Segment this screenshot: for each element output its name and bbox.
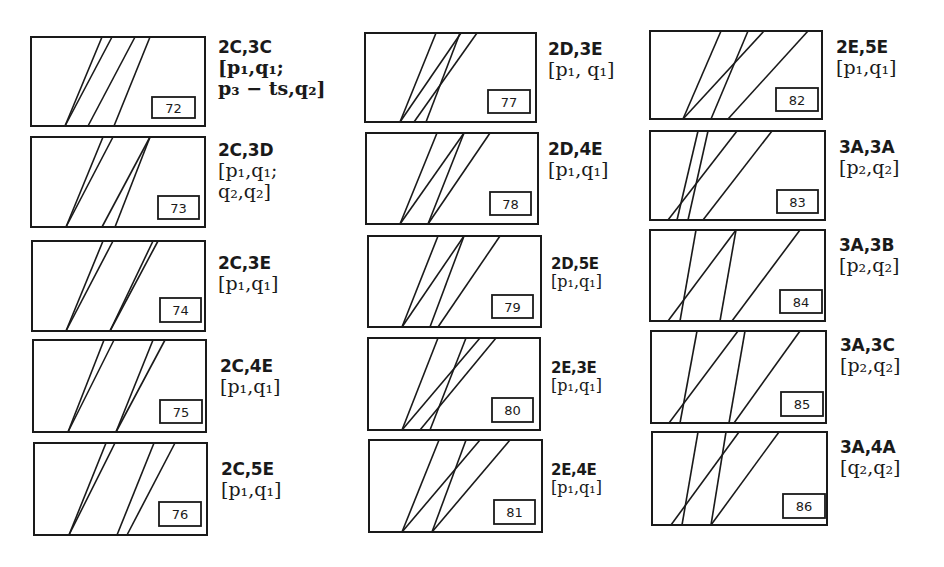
configuration-code: 2C,3E xyxy=(218,254,278,273)
panel-83: 83 xyxy=(650,131,825,220)
panel-75: 75 xyxy=(33,340,206,432)
parameter-bracket: [p₂,q₂] xyxy=(839,255,899,276)
configuration-code: 3A,4A xyxy=(840,438,900,457)
panel-label-86: 3A,4A[q₂,q₂] xyxy=(840,438,900,478)
panel-number: 75 xyxy=(173,405,190,420)
panel-label-74: 2C,3E[p₁,q₁] xyxy=(218,254,278,294)
panel-label-84: 3A,3B[p₂,q₂] xyxy=(839,236,899,276)
diagram-canvas: 727374757677787980818283848586 xyxy=(0,0,944,567)
parameter-bracket: [p₁,q₁] xyxy=(548,159,608,180)
panel-number: 86 xyxy=(796,499,813,514)
configuration-code: 2D,5E xyxy=(551,256,602,273)
configuration-code: 2D,4E xyxy=(548,140,608,159)
panel-86: 86 xyxy=(652,432,827,525)
parameter-bracket: [p₁,q₁; xyxy=(218,57,325,78)
parameter-bracket: [p₁,q₁] xyxy=(221,479,281,500)
configuration-code: 3A,3A xyxy=(839,138,899,157)
panel-label-82: 2E,5E[p₁,q₁] xyxy=(836,38,896,78)
configuration-code: 2C,3C xyxy=(218,38,325,57)
panel-74: 74 xyxy=(32,241,205,331)
panel-79: 79 xyxy=(368,236,541,327)
panel-label-78: 2D,4E[p₁,q₁] xyxy=(548,140,608,180)
panel-number: 84 xyxy=(793,295,810,310)
panel-label-85: 3A,3C[p₂,q₂] xyxy=(840,336,900,376)
panel-number: 72 xyxy=(165,101,182,116)
parameter-bracket: [q₂,q₂] xyxy=(840,457,900,478)
panel-label-73: 2C,3D[p₁,q₁;q₂,q₂] xyxy=(218,141,277,203)
panel-label-81: 2E,4E[p₁,q₁] xyxy=(551,462,602,497)
panel-label-80: 2E,3E[p₁,q₁] xyxy=(551,360,602,395)
panel-number: 77 xyxy=(501,95,518,110)
panel-85: 85 xyxy=(651,331,826,423)
configuration-code: 2E,5E xyxy=(836,38,896,57)
panel-number: 74 xyxy=(172,303,189,318)
panel-number: 82 xyxy=(789,93,806,108)
configuration-code: 2C,3D xyxy=(218,141,277,160)
configuration-code: 2C,5E xyxy=(221,460,281,479)
configuration-code: 2D,3E xyxy=(548,40,614,59)
parameter-bracket: [p₁,q₁] xyxy=(551,479,602,497)
panel-number: 81 xyxy=(506,505,523,520)
parameter-bracket: [p₂,q₂] xyxy=(839,157,899,178)
parameter-bracket: [p₁,q₁] xyxy=(551,377,602,395)
panel-number: 85 xyxy=(794,397,811,412)
panel-number: 80 xyxy=(504,403,521,418)
panel-label-76: 2C,5E[p₁,q₁] xyxy=(221,460,281,500)
panel-label-72: 2C,3C[p₁,q₁;p₃ − ts,q₂] xyxy=(218,38,325,100)
panel-77: 77 xyxy=(365,33,536,122)
configuration-code: 2E,4E xyxy=(551,462,602,479)
panel-81: 81 xyxy=(369,440,542,532)
panel-number: 78 xyxy=(502,197,519,212)
configuration-code: 2E,3E xyxy=(551,360,602,377)
configuration-code: 3A,3C xyxy=(840,336,900,355)
panel-number: 79 xyxy=(504,300,521,315)
parameter-bracket: [p₁,q₁] xyxy=(218,273,278,294)
panel-73: 73 xyxy=(31,137,205,227)
parameter-bracket: [p₂,q₂] xyxy=(840,355,900,376)
panel-78: 78 xyxy=(366,133,538,224)
panel-72: 72 xyxy=(31,37,205,126)
parameter-bracket: [p₁,q₁; xyxy=(218,160,277,181)
configuration-code: 3A,3B xyxy=(839,236,899,255)
panel-label-83: 3A,3A[p₂,q₂] xyxy=(839,138,899,178)
panel-label-75: 2C,4E[p₁,q₁] xyxy=(220,357,280,397)
panel-76: 76 xyxy=(34,443,207,535)
panel-80: 80 xyxy=(368,338,540,430)
panel-number: 73 xyxy=(170,201,187,216)
panel-84: 84 xyxy=(650,230,825,321)
panel-label-77: 2D,3E[p₁, q₁] xyxy=(548,40,614,80)
panel-label-79: 2D,5E[p₁,q₁] xyxy=(551,256,602,291)
panel-number: 76 xyxy=(172,507,189,522)
panel-82: 82 xyxy=(650,31,822,119)
parameter-bracket: p₃ − ts,q₂] xyxy=(218,78,325,99)
configuration-code: 2C,4E xyxy=(220,357,280,376)
parameter-bracket: q₂,q₂] xyxy=(218,181,277,202)
parameter-bracket: [p₁, q₁] xyxy=(548,59,614,80)
panel-number: 83 xyxy=(789,195,806,210)
parameter-bracket: [p₁,q₁] xyxy=(220,376,280,397)
parameter-bracket: [p₁,q₁] xyxy=(551,273,602,291)
parameter-bracket: [p₁,q₁] xyxy=(836,57,896,78)
